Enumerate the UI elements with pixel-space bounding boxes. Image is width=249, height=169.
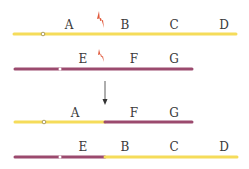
- centromere-marker: [59, 156, 62, 159]
- chromosome-2-before: E F G: [15, 49, 192, 71]
- chromosome-2-after: E B C D: [15, 140, 237, 159]
- down-arrow-icon: [103, 81, 108, 105]
- gene-label: D: [219, 18, 229, 32]
- chromosome-1-after: A F G: [15, 106, 192, 124]
- gene-label: A: [64, 18, 74, 32]
- gene-label: B: [121, 18, 130, 32]
- gene-label: G: [169, 106, 179, 120]
- gene-label: B: [121, 140, 130, 154]
- chromosome-1-before: A B C D: [14, 11, 236, 36]
- gene-label: E: [79, 52, 88, 66]
- gene-label: F: [130, 106, 138, 120]
- gene-label: F: [130, 52, 138, 66]
- gene-label: G: [169, 52, 179, 66]
- centromere-marker: [42, 120, 46, 124]
- gene-label: C: [169, 18, 178, 32]
- gene-label: A: [70, 106, 80, 120]
- lightning-break-icon: [98, 49, 104, 62]
- translocation-diagram: A B C D E F G A F G E B C D: [0, 0, 249, 169]
- centromere-marker: [59, 68, 62, 71]
- centromere-marker: [41, 32, 45, 36]
- gene-label: D: [219, 140, 229, 154]
- gene-label: E: [79, 140, 88, 154]
- lightning-break-icon: [97, 11, 104, 28]
- gene-label: C: [169, 140, 178, 154]
